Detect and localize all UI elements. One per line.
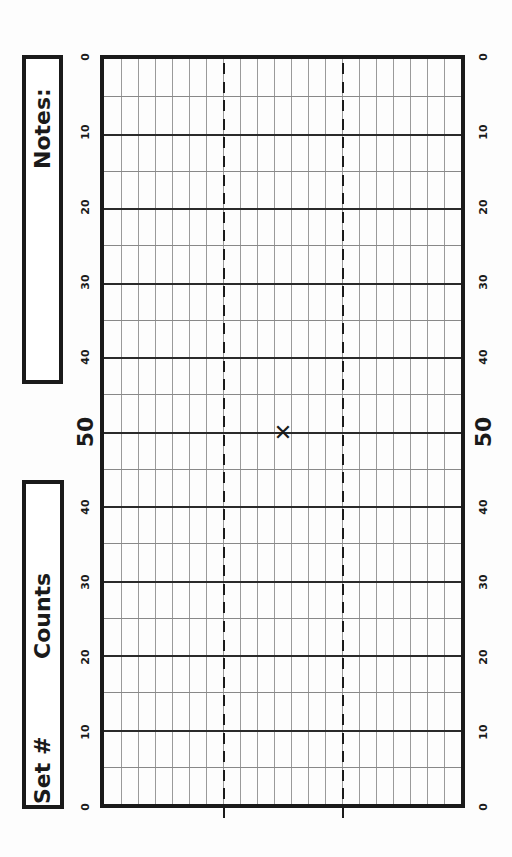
hash-mark — [342, 658, 344, 669]
hash-mark — [223, 119, 225, 130]
yard-line — [104, 692, 461, 693]
hash-mark — [342, 509, 344, 520]
hash-mark — [223, 323, 225, 334]
yard-line — [104, 208, 461, 210]
yard-label: 40 — [477, 499, 490, 514]
yard-line — [104, 320, 461, 321]
yard-line — [104, 506, 461, 508]
hash-mark — [223, 770, 225, 781]
hash-mark — [223, 695, 225, 706]
hash-mark — [223, 714, 225, 725]
yard-label: 10 — [477, 724, 490, 739]
hash-mark — [342, 584, 344, 595]
yard-label: 30 — [79, 274, 92, 289]
hash-mark — [223, 751, 225, 762]
hash-mark — [342, 565, 344, 576]
hash-mark — [342, 156, 344, 167]
yard-label: 20 — [477, 649, 490, 664]
yard-line — [104, 96, 461, 97]
hash-mark — [223, 733, 225, 744]
hash-mark — [342, 212, 344, 223]
hash-mark — [223, 137, 225, 148]
hash-mark — [342, 602, 344, 613]
yard-line — [104, 767, 461, 768]
yard-label: 40 — [477, 349, 490, 364]
hash-mark — [342, 695, 344, 706]
hash-mark — [223, 658, 225, 669]
yard-label: 30 — [79, 574, 92, 589]
hash-mark — [223, 361, 225, 372]
notes-label: Notes: — [30, 88, 55, 169]
hash-mark — [342, 714, 344, 725]
hash-mark — [223, 509, 225, 520]
hash-mark — [342, 305, 344, 316]
hash-mark — [342, 323, 344, 334]
hash-mark — [342, 454, 344, 465]
yard-label: 20 — [79, 649, 92, 664]
hash-mark — [342, 416, 344, 427]
hash-mark — [342, 788, 344, 799]
hash-mark — [223, 621, 225, 632]
hash-mark — [342, 137, 344, 148]
hash-mark — [342, 361, 344, 372]
yard-label: 50 — [73, 417, 98, 448]
hash-mark — [223, 175, 225, 186]
hash-mark — [342, 677, 344, 688]
hash-mark — [223, 268, 225, 279]
hash-mark — [223, 472, 225, 483]
hash-mark — [342, 491, 344, 502]
hash-mark — [342, 398, 344, 409]
yard-line — [104, 394, 461, 395]
hash-mark — [342, 472, 344, 483]
hash-mark — [342, 547, 344, 558]
counts-label: Counts — [30, 573, 55, 659]
hash-mark — [223, 602, 225, 613]
yard-line — [104, 543, 461, 544]
hash-mark — [223, 156, 225, 167]
hash-mark — [342, 193, 344, 204]
hash-mark — [223, 305, 225, 316]
yard-label: 40 — [79, 349, 92, 364]
yard-label: 0 — [79, 53, 92, 61]
set-counts-box[interactable]: Set # Counts — [22, 480, 64, 809]
hash-mark — [223, 63, 225, 74]
yard-label: 10 — [477, 124, 490, 139]
yard-line — [104, 730, 461, 732]
yard-label: 0 — [477, 803, 490, 811]
hash-mark — [342, 770, 344, 781]
yard-label: 50 — [471, 417, 496, 448]
hash-mark — [342, 342, 344, 353]
yard-label: 10 — [79, 724, 92, 739]
hash-mark — [223, 454, 225, 465]
hash-mark — [342, 175, 344, 186]
hash-mark — [223, 528, 225, 539]
yard-line — [104, 469, 461, 470]
hash-mark — [342, 63, 344, 74]
yard-label: 0 — [79, 803, 92, 811]
hash-mark — [342, 249, 344, 260]
hash-mark — [223, 491, 225, 502]
hash-mark — [223, 230, 225, 241]
hash-mark — [223, 82, 225, 93]
yard-line — [104, 283, 461, 285]
x-marker-icon: ✕ — [274, 420, 292, 445]
hash-mark — [223, 547, 225, 558]
hash-mark — [223, 416, 225, 427]
yard-line — [104, 357, 461, 359]
hash-mark — [223, 788, 225, 799]
hash-mark — [342, 435, 344, 446]
hash-mark — [342, 119, 344, 130]
hash-mark — [223, 398, 225, 409]
yard-line — [104, 171, 461, 172]
yard-label: 20 — [79, 199, 92, 214]
yard-label: 10 — [79, 124, 92, 139]
hash-mark — [342, 640, 344, 651]
hash-mark — [342, 528, 344, 539]
yard-label: 20 — [477, 199, 490, 214]
hash-mark — [223, 342, 225, 353]
notes-box[interactable]: Notes: — [22, 55, 63, 384]
hash-mark — [223, 212, 225, 223]
hash-mark — [223, 565, 225, 576]
yard-line — [104, 245, 461, 246]
yard-line — [104, 581, 461, 583]
